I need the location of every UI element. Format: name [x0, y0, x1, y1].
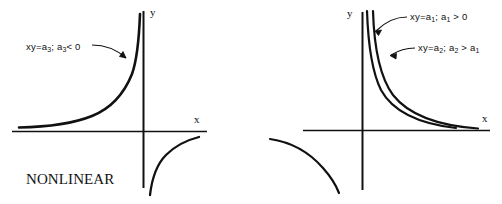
left-graph-panel: y x xy=a3; a3< 0 NONLINEAR GRAPHS — [0, 0, 251, 204]
right-annot1-suffix: > 0 — [451, 11, 468, 22]
right-annot1-middle: ; a — [435, 11, 446, 22]
right-annotation-2-arrowhead — [390, 54, 397, 60]
left-curve-annotation: xy=a3; a3< 0 — [26, 41, 81, 52]
left-annot-sub-2: 3 — [62, 46, 66, 53]
right-annot1-prefix: xy=a — [410, 11, 431, 22]
right-curve-a2-annotation: xy=a2; a2 > a1 — [418, 42, 480, 53]
right-annot2-suffix: > a — [459, 42, 476, 53]
right-graph-panel: y x xy=a1; a1 > 0 xy=a2; a2 > a1 NONLINE… — [251, 0, 502, 204]
left-caption-line-1: NONLINEAR — [26, 171, 114, 188]
figure-page: y x xy=a3; a3< 0 NONLINEAR GRAPHS — [0, 0, 502, 204]
right-y-axis-label: y — [347, 7, 353, 19]
left-annot-sub-1: 3 — [47, 46, 51, 53]
right-x-axis-label: x — [482, 112, 488, 124]
left-x-axis-label: x — [194, 113, 200, 125]
right-curve-a2 — [373, 11, 478, 129]
right-annot2-sub-3: 1 — [475, 47, 479, 54]
left-annotation-arrowhead — [120, 52, 127, 59]
right-graph-svg — [251, 0, 502, 204]
right-curve-a1-annotation: xy=a1; a1 > 0 — [410, 11, 467, 22]
right-curve-lower-left — [270, 139, 339, 193]
right-annotation-1-leader — [376, 17, 407, 31]
left-annot-middle: ; a — [51, 41, 62, 52]
right-annot1-sub-1: 1 — [431, 16, 435, 23]
left-annot-prefix: xy=a — [26, 41, 47, 52]
right-annotation-1-arrowhead — [375, 30, 382, 36]
left-annot-suffix: < 0 — [67, 41, 81, 52]
left-caption: NONLINEAR GRAPHS — [26, 137, 114, 204]
left-curve-lower-branch — [150, 137, 199, 195]
left-y-axis-label: y — [150, 6, 156, 18]
right-annot2-prefix: xy=a — [418, 42, 439, 53]
right-annot1-sub-2: 1 — [446, 16, 450, 23]
right-annot2-sub-1: 2 — [439, 47, 443, 54]
left-curve-upper-branch — [19, 14, 140, 128]
right-annot2-middle: ; a — [443, 42, 454, 53]
right-annot2-sub-2: 2 — [454, 47, 458, 54]
